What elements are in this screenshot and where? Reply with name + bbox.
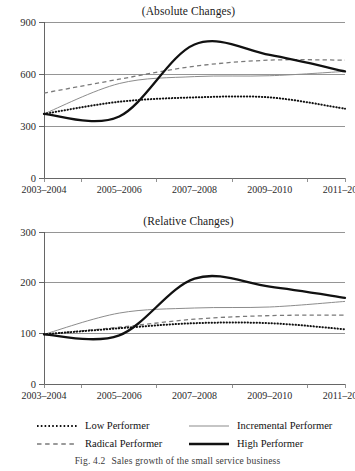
chart-title-relative: (Relative Changes) xyxy=(0,215,355,227)
xtick-label-1: 2005–2006 xyxy=(97,390,142,401)
xtick-label-2: 2007–2008 xyxy=(172,184,217,195)
legend-item-incremental-performer: Incremental Performer xyxy=(188,417,355,435)
ytick-label-600: 600 xyxy=(20,69,36,80)
ytick-label-900: 900 xyxy=(20,17,36,28)
legend-label-incremental-performer: Incremental Performer xyxy=(237,421,332,432)
figure-caption-text: Sales growth of the small service busine… xyxy=(112,456,281,466)
figure-caption: Fig. 4.2Sales growth of the small servic… xyxy=(0,456,355,466)
legend-label-low-performer: Low Performer xyxy=(85,421,149,432)
legend-label-radical-performer: Radical Performer xyxy=(85,439,162,450)
chart-panel-relative-changes: (Relative Changes) 01002003002003–200420… xyxy=(0,212,355,417)
xtick-label-1: 2005–2006 xyxy=(97,184,142,195)
chart-panel-absolute-changes: (Absolute Changes) 03006009002003–200420… xyxy=(0,0,355,212)
figure-caption-number: Fig. 4.2 xyxy=(75,456,106,466)
series-line-low-performer xyxy=(44,96,345,113)
ytick-label-300: 300 xyxy=(20,121,36,132)
xtick-label-0: 2003–2004 xyxy=(22,184,67,195)
legend-item-low-performer: Low Performer xyxy=(36,417,188,435)
chart-title-absolute: (Absolute Changes) xyxy=(0,5,355,17)
ytick-label-200: 200 xyxy=(20,277,36,288)
ytick-label-300: 300 xyxy=(20,227,36,238)
figure-sales-growth: (Absolute Changes) 03006009002003–200420… xyxy=(0,0,355,471)
legend-item-radical-performer: Radical Performer xyxy=(36,435,188,453)
relative-changes-plot: 01002003002003–20042005–20062007–2008200… xyxy=(0,212,355,417)
ytick-label-0: 0 xyxy=(31,173,36,184)
series-line-low-performer xyxy=(44,323,345,335)
absolute-changes-plot: 03006009002003–20042005–20062007–2008200… xyxy=(0,0,355,212)
ytick-label-0: 0 xyxy=(31,379,36,390)
xtick-label-3: 2009–2010 xyxy=(247,390,292,401)
thin-solid-line-swatch xyxy=(188,421,230,431)
ytick-label-100: 100 xyxy=(20,328,36,339)
legend-label-high-performer: High Performer xyxy=(237,439,303,450)
series-line-incremental-performer xyxy=(44,71,345,113)
chart-legend: Low Performer Incremental Performer Radi… xyxy=(0,417,355,453)
dashed-line-swatch xyxy=(36,439,78,449)
dotted-line-swatch xyxy=(36,421,78,431)
xtick-label-3: 2009–2010 xyxy=(247,184,292,195)
xtick-label-4: 2011–2012 xyxy=(323,390,355,401)
legend-item-high-performer: High Performer xyxy=(188,435,355,453)
xtick-label-2: 2007–2008 xyxy=(172,390,217,401)
xtick-label-4: 2011–2012 xyxy=(323,184,355,195)
series-line-high-performer xyxy=(44,41,345,121)
xtick-label-0: 2003–2004 xyxy=(22,390,67,401)
thick-solid-line-swatch xyxy=(188,439,230,449)
series-line-incremental-performer xyxy=(44,301,345,334)
